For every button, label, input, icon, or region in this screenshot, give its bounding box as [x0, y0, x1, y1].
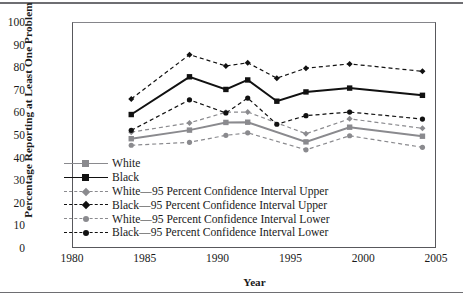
legend-label: White [108, 157, 140, 170]
legend-swatch [64, 171, 108, 185]
legend-swatch [64, 198, 108, 212]
data-point [223, 63, 229, 69]
y-tick-label: 80 [0, 62, 25, 72]
y-tick-label: 10 [0, 220, 25, 230]
y-tick-label: 100 [0, 17, 25, 27]
y-tick-label: 60 [0, 107, 25, 117]
data-point [419, 68, 425, 74]
data-point [303, 113, 308, 118]
legend-label: Black—95 Percent Confidence Interval Low… [108, 226, 328, 239]
data-point [245, 77, 250, 82]
data-point [129, 128, 134, 133]
data-point [347, 61, 353, 67]
x-tick-label: 2000 [333, 252, 393, 264]
data-point [245, 95, 250, 100]
data-point [420, 145, 425, 150]
x-tick-label: 2005 [406, 252, 463, 264]
data-point [129, 143, 134, 148]
data-point [303, 147, 308, 152]
data-point [187, 140, 192, 145]
legend-marker-square [82, 174, 89, 181]
data-point [187, 97, 192, 102]
legend-marker-square [82, 160, 89, 167]
data-point [347, 124, 352, 129]
data-point [420, 93, 425, 98]
data-point [303, 89, 308, 94]
data-point [187, 127, 192, 132]
y-tick-label: 30 [0, 175, 25, 185]
series-white-ci-lower [129, 130, 425, 152]
legend-marker-circle [83, 216, 89, 222]
y-tick-label: 90 [0, 40, 25, 50]
legend-item-0: White [64, 157, 330, 171]
legend-item-4: White—95 Percent Confidence Interval Low… [64, 212, 330, 226]
legend-label: White—95 Percent Confidence Interval Low… [108, 213, 330, 226]
legend-item-3: Black—95 Percent Confidence Interval Upp… [64, 198, 330, 212]
legend-label: White—95 Percent Confidence Interval Upp… [108, 185, 328, 198]
y-tick-label: 0 [0, 243, 25, 253]
x-tick-label: 1995 [260, 252, 320, 264]
data-point [303, 131, 309, 137]
legend-item-1: Black [64, 171, 330, 185]
data-point [129, 112, 134, 117]
legend-swatch [64, 226, 108, 240]
legend-marker-circle [83, 230, 89, 236]
data-point [187, 74, 192, 79]
x-axis-title: Year [72, 276, 437, 288]
data-point [245, 60, 251, 66]
legend-swatch [64, 185, 108, 199]
y-tick-label: 50 [0, 130, 25, 140]
data-point [245, 130, 250, 135]
data-point [245, 120, 250, 125]
chart-legend: WhiteBlackWhite—95 Percent Confidence In… [64, 157, 330, 240]
bottom-divider-rule [0, 292, 463, 293]
data-point [347, 85, 352, 90]
legend-swatch [64, 157, 108, 171]
data-point [245, 109, 251, 115]
data-point [223, 110, 228, 115]
legend-item-5: Black—95 Percent Confidence Interval Low… [64, 226, 330, 240]
legend-marker-diamond [82, 187, 90, 195]
data-point [303, 65, 309, 71]
legend-label: Black—95 Percent Confidence Interval Upp… [108, 199, 327, 212]
data-point [274, 122, 279, 127]
data-point [274, 98, 279, 103]
data-point [420, 134, 425, 139]
y-tick-label: 40 [0, 153, 25, 163]
legend-label: Black [108, 171, 139, 184]
legend-swatch [64, 212, 108, 226]
data-point [303, 139, 308, 144]
data-point [347, 133, 352, 138]
data-point [223, 133, 228, 138]
data-point [129, 136, 134, 141]
figure-container: Percentage Reporting at Least One Proble… [0, 0, 463, 300]
legend-marker-diamond [82, 201, 90, 209]
top-divider-rule [0, 2, 463, 4]
series-black-ci-upper [128, 52, 425, 102]
data-point [347, 116, 353, 122]
data-point [223, 87, 228, 92]
data-point [274, 75, 280, 81]
y-tick-label: 20 [0, 198, 25, 208]
data-point [223, 120, 228, 125]
y-tick-label: 70 [0, 85, 25, 95]
legend-item-2: White—95 Percent Confidence Interval Upp… [64, 185, 330, 199]
data-point [186, 120, 192, 126]
x-tick-label: 1980 [42, 252, 102, 264]
data-point [347, 109, 352, 114]
x-tick-label: 1990 [188, 252, 248, 264]
data-point [420, 116, 425, 121]
x-tick-label: 1985 [115, 252, 175, 264]
data-point [419, 125, 425, 131]
